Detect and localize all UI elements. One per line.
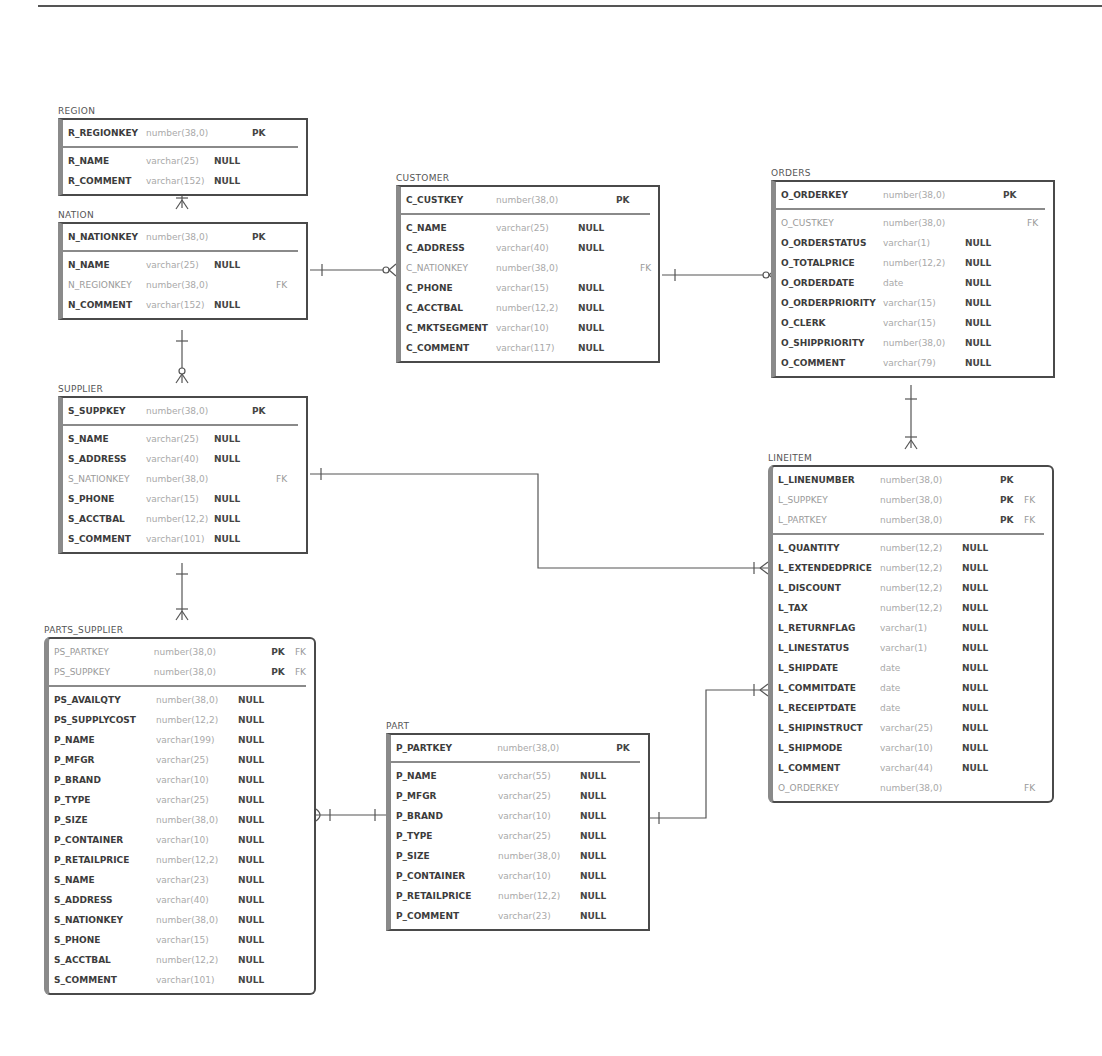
- column-row[interactable]: S_ACCTBALnumber(12,2)NULL: [54, 950, 314, 970]
- column-row[interactable]: L_SHIPDATEdateNULL: [778, 658, 1052, 678]
- column-row[interactable]: N_COMMENTvarchar(152)NULL: [68, 295, 306, 315]
- column-type: number(38,0): [880, 470, 962, 490]
- column-row[interactable]: S_ADDRESSvarchar(40)NULL: [68, 449, 306, 469]
- column-row[interactable]: P_NAMEvarchar(199)NULL: [54, 730, 314, 750]
- column-row[interactable]: O_TOTALPRICEnumber(12,2)NULL: [781, 253, 1053, 273]
- column-row[interactable]: P_TYPEvarchar(25)NULL: [54, 790, 314, 810]
- rel-orders-lineitem[interactable]: [905, 385, 917, 449]
- column-row[interactable]: S_NAMEvarchar(25)NULL: [68, 429, 306, 449]
- column-row[interactable]: O_SHIPPRIORITYnumber(38,0)NULL: [781, 333, 1053, 353]
- key-column-row[interactable]: S_SUPPKEYnumber(38,0)PK: [68, 401, 298, 421]
- column-row[interactable]: S_ADDRESSvarchar(40)NULL: [54, 890, 314, 910]
- column-row[interactable]: P_BRANDvarchar(10)NULL: [54, 770, 314, 790]
- column-row[interactable]: PS_AVAILQTYnumber(38,0)NULL: [54, 690, 314, 710]
- column-row[interactable]: O_COMMENTvarchar(79)NULL: [781, 353, 1053, 373]
- column-row[interactable]: R_NAMEvarchar(25)NULL: [68, 151, 306, 171]
- column-row[interactable]: P_MFGRvarchar(25)NULL: [396, 786, 648, 806]
- column-row[interactable]: O_ORDERDATEdateNULL: [781, 273, 1053, 293]
- entity-customer[interactable]: CUSTOMER C_CUSTKEYnumber(38,0)PK C_NAMEv…: [396, 171, 660, 363]
- entity-part[interactable]: PART P_PARTKEYnumber(38,0)PK P_NAMEvarch…: [386, 719, 650, 931]
- column-row[interactable]: S_NAMEvarchar(23)NULL: [54, 870, 314, 890]
- column-row[interactable]: O_ORDERPRIORITYvarchar(15)NULL: [781, 293, 1053, 313]
- column-row[interactable]: S_PHONEvarchar(15)NULL: [54, 930, 314, 950]
- column-row[interactable]: C_PHONEvarchar(15)NULL: [406, 278, 658, 298]
- column-row[interactable]: O_ORDERKEYnumber(38,0)FK: [778, 778, 1052, 798]
- column-row[interactable]: S_COMMENTvarchar(101)NULL: [68, 529, 306, 549]
- column-row[interactable]: O_CUSTKEYnumber(38,0)FK: [781, 213, 1053, 233]
- key-column-row[interactable]: P_PARTKEYnumber(38,0)PK: [396, 738, 640, 758]
- column-type: number(38,0): [154, 642, 234, 662]
- rel-supplier-lineitem[interactable]: [310, 468, 768, 574]
- rel-nation-supplier[interactable]: [176, 330, 188, 383]
- column-row[interactable]: R_COMMENTvarchar(152)NULL: [68, 171, 306, 191]
- rel-supplier-partssupplier[interactable]: [176, 563, 188, 620]
- column-row[interactable]: L_COMMITDATEdateNULL: [778, 678, 1052, 698]
- column-row[interactable]: C_NAMEvarchar(25)NULL: [406, 218, 658, 238]
- entity-supplier[interactable]: SUPPLIER S_SUPPKEYnumber(38,0)PK S_NAMEv…: [58, 382, 308, 554]
- primary-key-badge: [1000, 618, 1016, 638]
- column-nullable: NULL: [580, 766, 618, 786]
- column-row[interactable]: P_CONTAINERvarchar(10)NULL: [54, 830, 314, 850]
- primary-key-badge: [616, 258, 632, 278]
- column-row[interactable]: O_CLERKvarchar(15)NULL: [781, 313, 1053, 333]
- column-row[interactable]: L_LINESTATUSvarchar(1)NULL: [778, 638, 1052, 658]
- column-name: C_PHONE: [406, 278, 496, 298]
- column-row[interactable]: S_ACCTBALnumber(12,2)NULL: [68, 509, 306, 529]
- column-row[interactable]: C_ADDRESSvarchar(40)NULL: [406, 238, 658, 258]
- key-column-row[interactable]: R_REGIONKEYnumber(38,0)PK: [68, 123, 298, 143]
- column-type: varchar(10): [156, 770, 238, 790]
- column-row[interactable]: P_CONTAINERvarchar(10)NULL: [396, 866, 648, 886]
- column-row[interactable]: L_SHIPINSTRUCTvarchar(25)NULL: [778, 718, 1052, 738]
- rel-part-lineitem[interactable]: [648, 684, 768, 824]
- rel-customer-orders[interactable]: [662, 269, 776, 281]
- column-row[interactable]: PS_SUPPLYCOSTnumber(12,2)NULL: [54, 710, 314, 730]
- key-column-row[interactable]: L_LINENUMBERnumber(38,0)PK: [778, 470, 1044, 490]
- key-column-row[interactable]: O_ORDERKEYnumber(38,0)PK: [781, 185, 1045, 205]
- column-row[interactable]: N_REGIONKEYnumber(38,0)FK: [68, 275, 306, 295]
- column-row[interactable]: C_NATIONKEYnumber(38,0)FK: [406, 258, 658, 278]
- rel-part-partssupplier[interactable]: [316, 809, 386, 821]
- column-row[interactable]: P_NAMEvarchar(55)NULL: [396, 766, 648, 786]
- column-row[interactable]: C_COMMENTvarchar(117)NULL: [406, 338, 658, 358]
- column-row[interactable]: P_MFGRvarchar(25)NULL: [54, 750, 314, 770]
- column-row[interactable]: P_RETAILPRICEnumber(12,2)NULL: [396, 886, 648, 906]
- column-row[interactable]: L_RECEIPTDATEdateNULL: [778, 698, 1052, 718]
- column-row[interactable]: L_SHIPMODEvarchar(10)NULL: [778, 738, 1052, 758]
- entity-lineitem[interactable]: LINEITEM L_LINENUMBERnumber(38,0)PKL_SUP…: [768, 451, 1054, 803]
- column-type: date: [880, 698, 962, 718]
- column-row[interactable]: S_NATIONKEYnumber(38,0)NULL: [54, 910, 314, 930]
- column-row[interactable]: S_PHONEvarchar(15)NULL: [68, 489, 306, 509]
- column-row[interactable]: L_DISCOUNTnumber(12,2)NULL: [778, 578, 1052, 598]
- key-column-row[interactable]: L_PARTKEYnumber(38,0)PKFK: [778, 510, 1044, 530]
- column-row[interactable]: S_NATIONKEYnumber(38,0)FK: [68, 469, 306, 489]
- column-row[interactable]: C_ACCTBALnumber(12,2)NULL: [406, 298, 658, 318]
- key-column-row[interactable]: PS_PARTKEYnumber(38,0)PKFK: [54, 642, 306, 662]
- entity-nation[interactable]: NATION N_NATIONKEYnumber(38,0)PK N_NAMEv…: [58, 208, 308, 320]
- column-row[interactable]: N_NAMEvarchar(25)NULL: [68, 255, 306, 275]
- key-column-row[interactable]: N_NATIONKEYnumber(38,0)PK: [68, 227, 298, 247]
- column-row[interactable]: L_EXTENDEDPRICEnumber(12,2)NULL: [778, 558, 1052, 578]
- column-row[interactable]: L_QUANTITYnumber(12,2)NULL: [778, 538, 1052, 558]
- rel-nation-customer[interactable]: [310, 264, 396, 276]
- column-row[interactable]: P_COMMENTvarchar(23)NULL: [396, 906, 648, 926]
- column-row[interactable]: L_COMMENTvarchar(44)NULL: [778, 758, 1052, 778]
- key-column-row[interactable]: L_SUPPKEYnumber(38,0)PKFK: [778, 490, 1044, 510]
- column-row[interactable]: P_RETAILPRICEnumber(12,2)NULL: [54, 850, 314, 870]
- key-column-row[interactable]: PS_SUPPKEYnumber(38,0)PKFK: [54, 662, 306, 682]
- column-row[interactable]: P_TYPEvarchar(25)NULL: [396, 826, 648, 846]
- primary-key-badge: [252, 151, 268, 171]
- key-section: PS_PARTKEYnumber(38,0)PKFKPS_SUPPKEYnumb…: [49, 639, 306, 687]
- column-row[interactable]: P_SIZEnumber(38,0)NULL: [396, 846, 648, 866]
- column-row[interactable]: L_TAXnumber(12,2)NULL: [778, 598, 1052, 618]
- entity-orders[interactable]: ORDERS O_ORDERKEYnumber(38,0)PK O_CUSTKE…: [771, 166, 1055, 378]
- column-row[interactable]: S_COMMENTvarchar(101)NULL: [54, 970, 314, 990]
- entity-parts-supplier[interactable]: PARTS_SUPPLIER PS_PARTKEYnumber(38,0)PKF…: [44, 623, 316, 995]
- column-row[interactable]: C_MKTSEGMENTvarchar(10)NULL: [406, 318, 658, 338]
- column-row[interactable]: P_BRANDvarchar(10)NULL: [396, 806, 648, 826]
- column-row[interactable]: L_RETURNFLAGvarchar(1)NULL: [778, 618, 1052, 638]
- primary-key-badge: [1000, 718, 1016, 738]
- column-row[interactable]: O_ORDERSTATUSvarchar(1)NULL: [781, 233, 1053, 253]
- key-column-row[interactable]: C_CUSTKEYnumber(38,0)PK: [406, 190, 650, 210]
- column-row[interactable]: P_SIZEnumber(38,0)NULL: [54, 810, 314, 830]
- entity-region[interactable]: REGION R_REGIONKEYnumber(38,0)PK R_NAMEv…: [58, 104, 308, 196]
